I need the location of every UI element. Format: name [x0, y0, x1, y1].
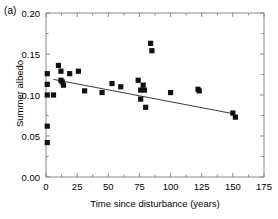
data-point-marker: [45, 140, 50, 145]
x-tick-label: 50: [103, 181, 114, 192]
data-point-marker: [109, 81, 114, 86]
data-point-marker: [136, 78, 141, 83]
data-point-marker: [138, 97, 143, 102]
data-point-marker: [45, 92, 50, 97]
x-tick-label: 150: [225, 181, 241, 192]
scatter-plot: 02550751001251501750.000.050.100.150.20: [0, 0, 278, 219]
x-tick-label: 175: [256, 181, 272, 192]
y-tick-label: 0.15: [22, 49, 41, 60]
data-point-marker: [45, 82, 50, 87]
data-point-marker: [56, 63, 61, 68]
axes: [46, 13, 264, 177]
data-point-marker: [99, 90, 104, 95]
data-point-marker: [233, 115, 238, 120]
data-point-marker: [197, 88, 202, 93]
data-point-marker: [82, 88, 87, 93]
y-tick-label: 0.00: [22, 172, 41, 183]
data-point-marker: [141, 83, 146, 88]
data-point-marker: [67, 71, 72, 76]
data-point-marker: [142, 87, 147, 92]
data-point-marker: [51, 92, 56, 97]
x-tick-label: 125: [194, 181, 210, 192]
figure-panel: (a) Summer albedo Time since disturbance…: [0, 0, 278, 219]
y-tick-label: 0.20: [22, 8, 41, 19]
x-tick-label: 100: [163, 181, 179, 192]
x-tick-label: 75: [134, 181, 145, 192]
data-points: [45, 41, 238, 145]
data-point-marker: [118, 84, 123, 89]
axis-frame: [46, 13, 264, 177]
data-point-marker: [58, 69, 63, 74]
axis-tick-labels: 02550751001251501750.000.050.100.150.20: [22, 8, 272, 193]
x-tick-label: 25: [72, 181, 83, 192]
y-tick-label: 0.05: [22, 131, 41, 142]
data-point-marker: [45, 71, 50, 76]
axis-ticks: [46, 13, 264, 177]
data-point-marker: [45, 124, 50, 129]
data-point-marker: [61, 83, 66, 88]
y-tick-label: 0.10: [22, 90, 41, 101]
x-tick-label: 0: [43, 181, 48, 192]
data-point-marker: [168, 90, 173, 95]
data-point-marker: [148, 41, 153, 46]
data-point-marker: [143, 105, 148, 110]
data-point-marker: [76, 69, 81, 74]
data-point-marker: [149, 48, 154, 53]
